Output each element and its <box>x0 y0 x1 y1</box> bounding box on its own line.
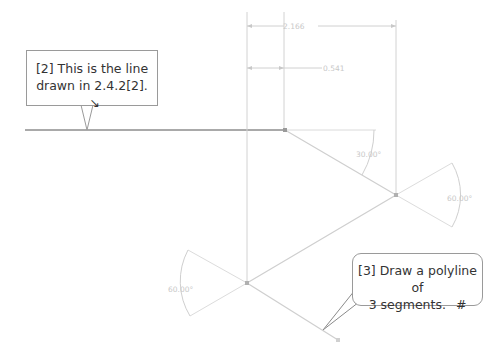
vertex-marker[interactable] <box>394 193 398 197</box>
vertex-marker[interactable] <box>283 128 287 132</box>
vertex-marker[interactable] <box>245 281 249 285</box>
svg-text:60.00°: 60.00° <box>447 194 472 203</box>
angle-dimension-60-left: 60.00° <box>168 250 247 316</box>
arrow-down-right-icon: ↘ <box>89 95 99 110</box>
dimension-2166: 2.166 <box>247 22 396 31</box>
svg-text:60.00°: 60.00° <box>168 285 193 294</box>
callout-line-note-line2-row: drawn in 2.4.2[2]. ↘ <box>27 77 157 111</box>
svg-text:30.00°: 30.00° <box>356 150 381 159</box>
callout-line-note-line2: drawn in 2.4.2[2]. <box>36 78 148 93</box>
callout-polyline-note-line2-row: 3 segments. # <box>353 296 482 313</box>
dimension-0541: 0.541 <box>247 64 345 73</box>
dimension-text-top: 2.166 <box>283 22 305 31</box>
vertex-marker[interactable] <box>336 338 340 342</box>
callout-polyline-note: [3] Draw a polyline of 3 segments. # <box>352 253 483 306</box>
callout-polyline-note-line2: 3 segments. <box>369 297 446 312</box>
angle-dimension-60-right: 60.00° <box>396 163 472 227</box>
hash-marker-icon: # <box>456 297 466 312</box>
callout-line-note: [2] This is the line drawn in 2.4.2[2]. … <box>26 50 158 106</box>
dimension-text-second: 0.541 <box>323 64 345 73</box>
angle-dimension-30: 30.00° <box>356 130 381 175</box>
callout-polyline-note-line1: [3] Draw a polyline of <box>353 262 482 296</box>
callout-line-note-line1: [2] This is the line <box>27 60 157 77</box>
